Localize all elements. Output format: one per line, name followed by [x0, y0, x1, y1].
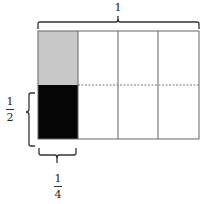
bottom-numerator: 1 — [55, 173, 62, 184]
bottom-denominator: 4 — [55, 189, 62, 200]
bottom-fraction-label: 1 4 — [51, 173, 65, 200]
top-label: 1 — [113, 2, 123, 13]
fraction-bar — [6, 109, 14, 110]
fraction-bar — [54, 186, 62, 187]
cell-light-shaded — [38, 31, 78, 85]
left-denominator: 2 — [7, 112, 14, 123]
cell-dark-shaded — [38, 85, 78, 139]
fraction-diagram — [0, 0, 200, 204]
left-numerator: 1 — [7, 96, 14, 107]
left-fraction-label: 1 2 — [3, 96, 17, 123]
left-brace — [26, 93, 35, 146]
